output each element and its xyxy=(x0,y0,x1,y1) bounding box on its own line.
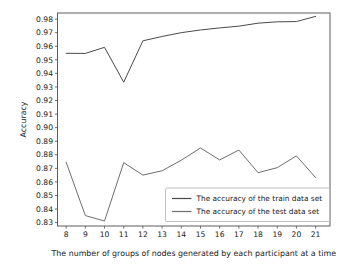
x-tick-label: 14 xyxy=(176,230,186,239)
x-tick-label: 16 xyxy=(215,230,225,239)
y-tick-label: 0.91 xyxy=(36,110,53,119)
x-tick-label: 9 xyxy=(83,230,88,239)
accuracy-line-chart: 0.830.840.850.860.870.880.890.900.910.92… xyxy=(0,0,350,268)
chart-figure: 0.830.840.850.860.870.880.890.900.910.92… xyxy=(0,0,350,268)
y-tick-label: 0.90 xyxy=(36,123,53,132)
x-tick-label: 12 xyxy=(138,230,148,239)
x-tick-label: 21 xyxy=(311,230,321,239)
y-tick-label: 0.85 xyxy=(36,191,53,200)
y-tick-label: 0.87 xyxy=(36,164,53,173)
y-axis-title: Accuracy xyxy=(19,101,28,137)
legend-box xyxy=(166,188,330,222)
x-tick-label: 18 xyxy=(253,230,263,239)
y-tick-labels: 0.830.840.850.860.870.880.890.900.910.92… xyxy=(36,15,53,228)
y-tick-label: 0.97 xyxy=(36,28,53,37)
x-tick-label: 13 xyxy=(157,230,167,239)
legend-label-train[interactable]: The accuracy of the train data set xyxy=(196,194,323,203)
legend-label-test[interactable]: The accuracy of the test data set xyxy=(196,207,320,216)
x-tick-label: 20 xyxy=(292,230,302,239)
x-tick-label: 8 xyxy=(64,230,69,239)
y-tick-label: 0.86 xyxy=(36,178,53,187)
x-tick-label: 15 xyxy=(196,230,206,239)
x-tick-label: 11 xyxy=(119,230,129,239)
y-tick-label: 0.95 xyxy=(36,56,53,65)
chart-legend[interactable]: The accuracy of the train data setThe ac… xyxy=(166,188,330,222)
x-tick-label: 10 xyxy=(100,230,110,239)
y-tick-label: 0.83 xyxy=(36,218,53,227)
series-line-train xyxy=(66,16,315,82)
x-tick-label: 17 xyxy=(234,230,244,239)
y-tick-label: 0.93 xyxy=(36,83,53,92)
y-tick-label: 0.88 xyxy=(36,150,53,159)
x-tick-label: 19 xyxy=(272,230,282,239)
y-tick-label: 0.92 xyxy=(36,96,53,105)
y-tick-label: 0.98 xyxy=(36,15,53,24)
y-tick-label: 0.89 xyxy=(36,137,53,146)
y-tick-label: 0.96 xyxy=(36,42,53,51)
x-axis-title: The number of groups of nodes generated … xyxy=(50,249,336,258)
y-tick-label: 0.94 xyxy=(36,69,53,78)
y-tick-label: 0.84 xyxy=(36,205,53,214)
x-tick-labels: 89101112131415161718192021 xyxy=(64,230,321,239)
